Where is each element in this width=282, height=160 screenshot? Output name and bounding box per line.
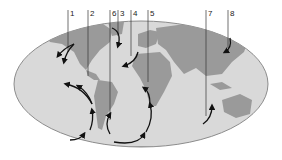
label-7: 7 xyxy=(208,10,212,18)
label-4: 4 xyxy=(133,10,137,18)
world-map xyxy=(0,0,282,160)
label-8: 8 xyxy=(230,10,234,18)
label-2: 2 xyxy=(90,10,94,18)
label-1: 1 xyxy=(70,10,74,18)
continent-antarctica xyxy=(60,146,220,150)
label-6: 6 xyxy=(112,10,116,18)
label-3: 3 xyxy=(120,10,124,18)
label-5: 5 xyxy=(150,10,154,18)
